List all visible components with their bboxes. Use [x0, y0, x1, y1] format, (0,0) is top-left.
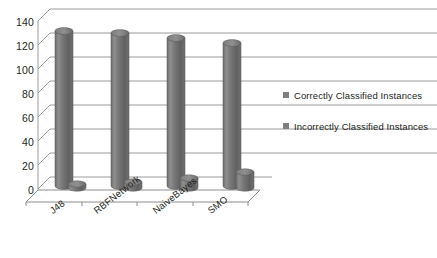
bar-group-j48 — [55, 28, 86, 192]
bar-correct-smo — [223, 40, 241, 190]
bar-group-smo — [223, 40, 254, 192]
legend-item-incorrect: Incorrectly Classified Instances — [283, 121, 435, 133]
bar-correct-naivebayes — [167, 35, 185, 190]
bar-group-rbfnetwork — [111, 30, 142, 192]
bar-correct-rbfnetwork — [111, 30, 129, 190]
bar-group-naivebayes — [167, 35, 198, 192]
bar-incorrect-j48 — [68, 181, 86, 191]
legend-label-correct: Correctly Classified Instances — [294, 90, 422, 102]
chart-legend: Correctly Classified Instances Incorrect… — [283, 90, 435, 151]
legend-swatch-icon — [283, 92, 289, 98]
legend-swatch-icon — [283, 123, 289, 129]
legend-label-incorrect: Incorrectly Classified Instances — [294, 121, 428, 133]
bar-correct-j48 — [55, 28, 73, 190]
bar-incorrect-smo — [236, 169, 254, 191]
chart-container: 140 120 100 80 60 40 20 0 — [0, 0, 437, 258]
legend-item-correct: Correctly Classified Instances — [283, 90, 435, 102]
